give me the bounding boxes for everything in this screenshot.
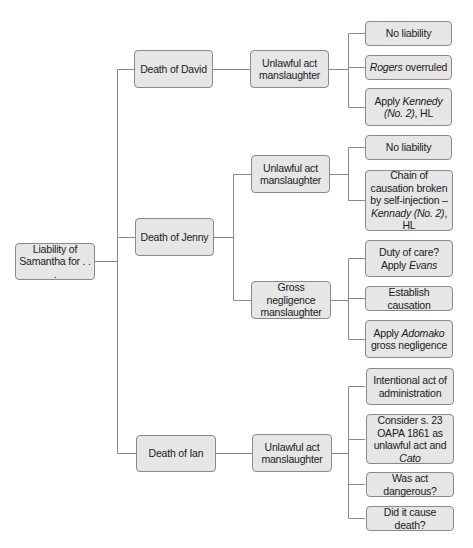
offence-label: Unlawful act manslaughter [254, 57, 325, 82]
offence-label: Unlawful act manslaughter [255, 162, 326, 187]
leaf-label: Duty of care? Apply Evans [369, 246, 449, 271]
leaf-node: Intentional act of administration [366, 368, 454, 405]
offence-ian-unlawful-act: Unlawful act manslaughter [252, 434, 332, 472]
leaf-node: No liability [365, 135, 452, 160]
root-label: Liability of Samantha for . . . [19, 243, 91, 281]
branch-death-of-ian: Death of Ian [136, 435, 216, 472]
branch-label: Death of Ian [149, 447, 204, 460]
leaf-label: No liability [386, 141, 431, 154]
branch-label: Death of David [140, 63, 207, 76]
leaf-node: Rogers overruled [365, 55, 452, 80]
leaf-node: Was act dangerous? [366, 472, 454, 497]
leaf-node: Duty of care? Apply Evans [365, 240, 453, 277]
offence-jenny-unlawful-act: Unlawful act manslaughter [251, 155, 330, 193]
leaf-node: No liability [365, 21, 452, 46]
leaf-label: Intentional act of administration [370, 374, 450, 399]
leaf-label: Rogers overruled [370, 61, 447, 74]
offence-jenny-gross-negligence: Gross negligence manslaughter [251, 281, 331, 319]
leaf-label: Apply Adomako gross negligence [369, 327, 449, 352]
leaf-label: Was act dangerous? [370, 472, 450, 497]
leaf-node: Apply Adomako gross negligence [365, 320, 453, 358]
leaf-node: Did it cause death? [366, 506, 454, 531]
leaf-label: No liability [386, 27, 431, 40]
offence-david-unlawful-act: Unlawful act manslaughter [250, 50, 329, 88]
leaf-label: Consider s. 23 OAPA 1861 as unlawful act… [370, 414, 450, 464]
leaf-label: Apply Kennedy (No. 2), HL [369, 95, 448, 120]
leaf-label: Chain of causation broken by self-inject… [369, 169, 449, 232]
leaf-node: Chain of causation broken by self-inject… [365, 170, 453, 231]
leaf-label: Did it cause death? [370, 506, 450, 531]
root-node: Liability of Samantha for . . . [15, 243, 95, 280]
leaf-node: Consider s. 23 OAPA 1861 as unlawful act… [366, 414, 454, 464]
leaf-node: Establish causation [365, 286, 453, 311]
branch-label: Death of Jenny [141, 231, 209, 244]
branch-death-of-jenny: Death of Jenny [135, 218, 214, 256]
offence-label: Unlawful act manslaughter [256, 441, 328, 466]
branch-death-of-david: Death of David [134, 50, 213, 88]
offence-label: Gross negligence manslaughter [255, 281, 327, 319]
leaf-node: Apply Kennedy (No. 2), HL [365, 88, 452, 126]
liability-tree-diagram: Liability of Samantha for . . . Death of… [0, 0, 473, 548]
leaf-label: Establish causation [369, 286, 449, 311]
